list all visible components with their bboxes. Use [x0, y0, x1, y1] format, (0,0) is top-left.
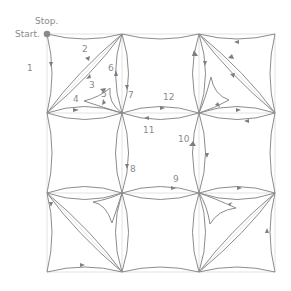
step-label-2: 2 [82, 44, 88, 54]
grid-lines [47, 34, 275, 272]
direction-arrows [49, 40, 269, 267]
step-label-8: 8 [130, 164, 136, 174]
quilt-diagram: Stop. Start. 123456789101112 [0, 0, 291, 291]
step-label-11: 11 [143, 125, 154, 135]
step-label-1: 1 [27, 63, 33, 73]
step-label-5: 5 [101, 89, 107, 99]
diagonal-leaves [47, 34, 275, 272]
step-label-9: 9 [173, 174, 179, 184]
step-label-10: 10 [178, 134, 190, 144]
start-stop-dot [44, 31, 51, 38]
step-label-3: 3 [89, 80, 95, 90]
step-label-7: 7 [128, 90, 134, 100]
diagram-canvas: Stop. Start. 123456789101112 [0, 0, 291, 291]
step-label-12: 12 [163, 92, 174, 102]
step-label-6: 6 [108, 63, 114, 73]
vertical-petals [116, 34, 206, 272]
curved-triangles [84, 77, 236, 224]
stop-label: Stop. [35, 16, 58, 26]
outer-border-curves [47, 34, 275, 272]
horizontal-petals [47, 107, 275, 200]
step-label-4: 4 [73, 94, 79, 104]
start-label: Start. [15, 29, 40, 39]
